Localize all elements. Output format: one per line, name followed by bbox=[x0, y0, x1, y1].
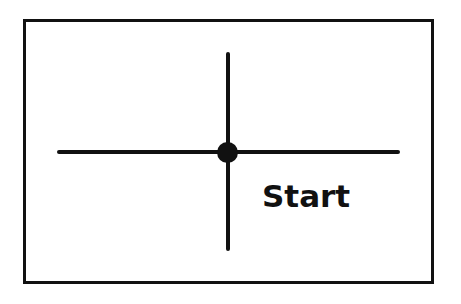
start-point-dot bbox=[217, 142, 238, 163]
start-label: Start bbox=[262, 178, 350, 214]
